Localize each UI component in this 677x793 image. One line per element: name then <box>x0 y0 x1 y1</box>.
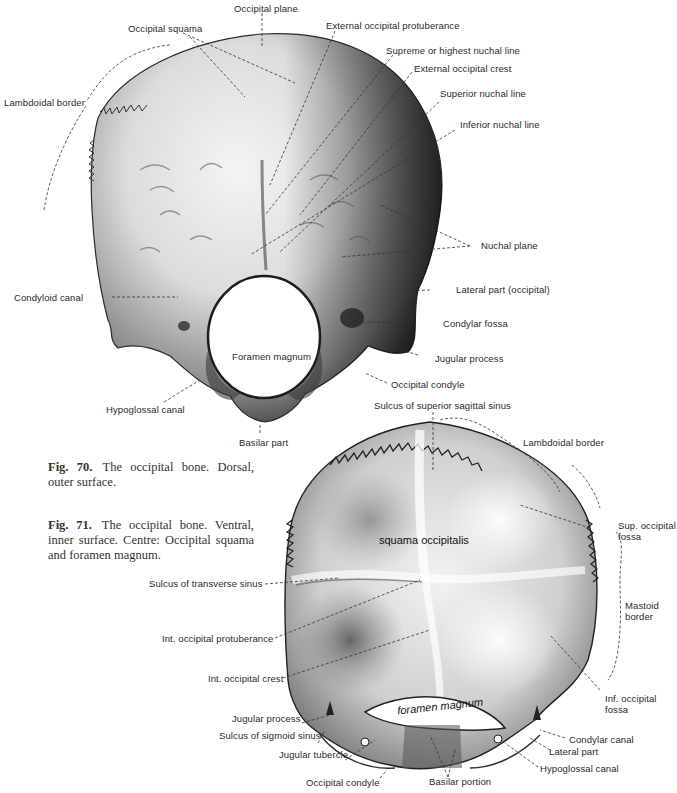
label-inf-occipital-fossa-line2: fossa <box>605 704 628 715</box>
label-inferior-nuchal-line: Inferior nuchal line <box>460 119 540 130</box>
inscription-squama-occipitalis: squama occipitalis <box>379 534 469 546</box>
label-external-occipital-crest: External occipital crest <box>414 63 511 74</box>
anatomy-page: Occipital plane Occipital squama Externa… <box>0 0 677 793</box>
caption-fig-70: Fig. 70.The occipital bone. Dorsal, oute… <box>48 460 254 490</box>
label-sulcus-superior-sagittal-sinus: Sulcus of superior sagittal sinus <box>374 400 511 411</box>
label-sulcus-transverse-sinus: Sulcus of transverse sinus <box>149 578 262 589</box>
label-mastoid-border-line2: border <box>625 611 653 622</box>
label-lambdoidal-border-ventral: Lambdoidal border <box>523 437 604 448</box>
label-basilar-portion: Basilar portion <box>429 776 491 787</box>
label-sulcus-sigmoid-sinus: Sulcus of sigmoid sinus <box>219 730 321 741</box>
label-hypoglossal-canal-dorsal: Hypoglossal canal <box>106 404 185 415</box>
label-int-occipital-crest: Int. occipital crest <box>208 673 283 684</box>
label-jugular-tubercle: Jugular tubercle <box>279 749 348 760</box>
label-jugular-process-dorsal: Jugular process <box>435 353 504 364</box>
label-occipital-squama: Occipital squama <box>128 23 202 34</box>
label-condylar-canal: Condylar canal <box>569 734 634 745</box>
label-condylar-fossa: Condylar fossa <box>443 318 508 329</box>
label-basilar-part: Basilar part <box>239 437 288 448</box>
label-jugular-process-ventral: Jugular process <box>232 713 301 724</box>
illustration-canvas <box>0 0 677 793</box>
label-hypoglossal-canal-ventral: Hypoglossal canal <box>540 763 619 774</box>
label-lateral-part-ventral: Lateral part <box>549 746 598 757</box>
label-lateral-part-occipital: Lateral part (occipital) <box>456 284 550 295</box>
caption-fig-71: Fig. 71.The occipital bone. Ventral, inn… <box>48 518 254 563</box>
label-lambdoidal-border-dorsal: Lambdoidal border <box>4 97 85 108</box>
label-condyloid-canal: Condyloid canal <box>14 292 83 303</box>
label-sup-occipital-fossa-line1: Sup. occipital <box>618 520 676 531</box>
dorsal-occipital-bone <box>89 34 442 422</box>
label-nuchal-plane: Nuchal plane <box>481 240 538 251</box>
caption-fig-71-number: Fig. 71. <box>48 518 92 532</box>
label-inf-occipital-fossa-line1: Inf. occipital <box>605 693 657 704</box>
label-foramen-magnum-dorsal: Foramen magnum <box>232 351 311 362</box>
label-sup-occipital-fossa-line2: fossa <box>618 531 641 542</box>
label-mastoid-border-line1: Mastoid <box>625 600 659 611</box>
label-supreme-nuchal-line: Supreme or highest nuchal line <box>386 45 520 56</box>
label-superior-nuchal-line: Superior nuchal line <box>440 88 526 99</box>
caption-fig-70-number: Fig. 70. <box>48 460 93 474</box>
foramen-magnum-dorsal <box>208 276 320 398</box>
label-occipital-condyle-dorsal: Occipital condyle <box>391 379 465 390</box>
label-external-occipital-protuberance: External occipital protuberance <box>326 20 460 31</box>
label-occipital-condyle-ventral: Occipital condyle <box>306 777 380 788</box>
label-int-occipital-protuberance: Int. occipital protuberance <box>162 633 274 644</box>
label-occipital-plane: Occipital plane <box>234 3 298 14</box>
ventral-occipital-bone <box>285 422 598 769</box>
